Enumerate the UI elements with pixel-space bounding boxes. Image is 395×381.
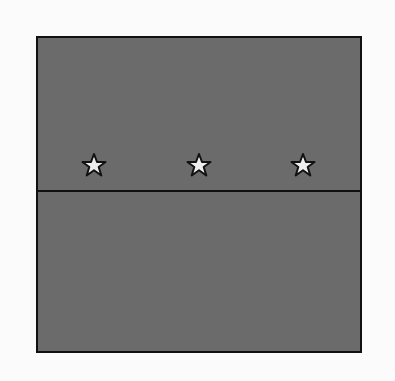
star-icon (81, 152, 107, 178)
star-icon (290, 152, 316, 178)
outer-box (36, 36, 362, 353)
star-icon (186, 152, 212, 178)
